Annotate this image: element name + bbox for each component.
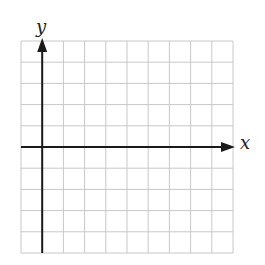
x-axis-label: x bbox=[240, 134, 250, 152]
y-axis-label: y bbox=[36, 18, 46, 36]
y-axis-arrow-icon bbox=[37, 38, 47, 52]
axes bbox=[21, 38, 235, 253]
coordinate-grid bbox=[0, 0, 265, 265]
